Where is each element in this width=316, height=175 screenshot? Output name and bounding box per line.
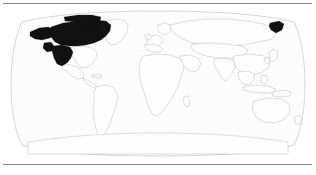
world-map-container — [8, 8, 308, 158]
figure-container — [0, 0, 316, 175]
figure-bottom-rule — [3, 164, 312, 165]
world-map — [8, 8, 308, 158]
figure-top-rule — [3, 3, 312, 4]
